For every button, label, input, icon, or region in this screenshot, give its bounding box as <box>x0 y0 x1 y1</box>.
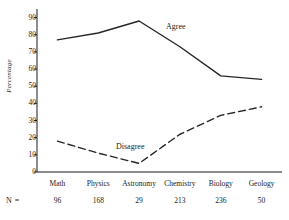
series-label-disagree: Disagree <box>116 142 144 151</box>
series-line-disagree <box>57 107 261 164</box>
y-tick-70: 70 <box>14 48 36 56</box>
y-tick-50: 50 <box>14 82 36 90</box>
y-tick-40: 40 <box>14 99 36 107</box>
y-tick-30: 30 <box>14 117 36 125</box>
y-tick-80: 80 <box>14 31 36 39</box>
y-tick-0: 0 <box>14 168 36 176</box>
series-line-agree <box>57 21 261 79</box>
y-tick-90: 90 <box>14 14 36 22</box>
line-chart: Percentage 0102030405060708090 Agree Dis… <box>0 0 289 220</box>
y-tick-60: 60 <box>14 65 36 73</box>
plot-area <box>37 9 282 176</box>
sample-size-label: N = <box>6 196 20 205</box>
n-value-geology: 50 <box>232 196 289 205</box>
x-label-geology: Geology <box>232 179 289 188</box>
y-tick-10: 10 <box>14 151 36 159</box>
y-tick-20: 20 <box>14 134 36 142</box>
plot-svg <box>37 9 282 176</box>
series-label-agree: Agree <box>166 22 186 31</box>
